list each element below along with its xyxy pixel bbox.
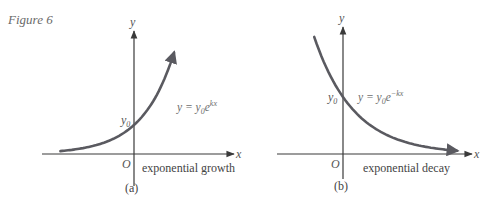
decay-equation: y = y0e−kx (357, 89, 404, 106)
intercept-sub: 0 (126, 120, 130, 129)
figure-caption: Figure 6 (7, 12, 53, 27)
panel-decay: x y O y0 y = y0e−kx exponential decay (b… (277, 11, 480, 193)
intercept-sub: 0 (333, 97, 337, 106)
y-axis-label: y (338, 11, 345, 25)
y-axis-label: y (129, 15, 136, 29)
intercept-label: y0 (120, 113, 130, 129)
panel-label-a: (a) (125, 181, 138, 195)
figure-canvas: Figure 6 x y O y0 y = y0ekx exponential … (0, 0, 501, 207)
equation-lhs: y = y (357, 91, 383, 104)
growth-curve (60, 53, 174, 151)
equation-lhs: y = y (176, 101, 202, 114)
growth-equation: y = y0ekx (176, 99, 217, 116)
origin-label: O (122, 157, 131, 171)
panel-label-b: (b) (334, 179, 348, 193)
panel-growth: x y O y0 y = y0ekx exponential growth (a… (42, 15, 242, 195)
growth-description: exponential growth (142, 161, 235, 175)
intercept-label: y0 (327, 90, 337, 106)
equation-sup: kx (210, 99, 218, 108)
equation-sup: −kx (391, 89, 404, 98)
decay-description: exponential decay (363, 161, 450, 175)
x-axis-label: x (235, 147, 242, 161)
x-axis-label: x (473, 147, 480, 161)
origin-label: O (331, 157, 340, 171)
